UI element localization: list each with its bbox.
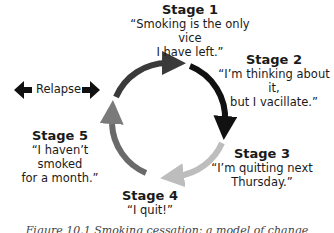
relapse-label: Relapse: [36, 82, 81, 96]
stage1-arrow-icon: [116, 63, 168, 97]
stage-5-title: Stage 5: [10, 128, 110, 143]
stage-3-title: Stage 3: [202, 146, 322, 161]
relapse-indicator: Relapse: [14, 78, 100, 102]
stage-2-quote: “I’m thinking about it, but I vacillate.…: [212, 67, 334, 109]
stage-3-quote: “I’m quitting next Thursday.”: [202, 161, 322, 189]
figure-caption: Figure 10.1 Smoking cessation: a model o…: [0, 224, 334, 233]
stage-5-quote: “I haven’t smoked for a month.”: [10, 143, 110, 185]
stage-4-title: Stage 4: [110, 188, 190, 203]
stage-1-title: Stage 1: [130, 2, 250, 17]
stage-4-quote: “I quit!”: [110, 203, 190, 217]
stage-3-label: Stage 3 “I’m quitting next Thursday.”: [202, 146, 322, 189]
stage-1-label: Stage 1 “Smoking is the only vice I have…: [130, 2, 250, 59]
stage-2-title: Stage 2: [212, 52, 334, 67]
stage-2-label: Stage 2 “I’m thinking about it, but I va…: [212, 52, 334, 109]
stage-5-label: Stage 5 “I haven’t smoked for a month.”: [10, 128, 110, 185]
stage4-arc-icon: [112, 124, 146, 173]
stage-4-label: Stage 4 “I quit!”: [110, 188, 190, 217]
